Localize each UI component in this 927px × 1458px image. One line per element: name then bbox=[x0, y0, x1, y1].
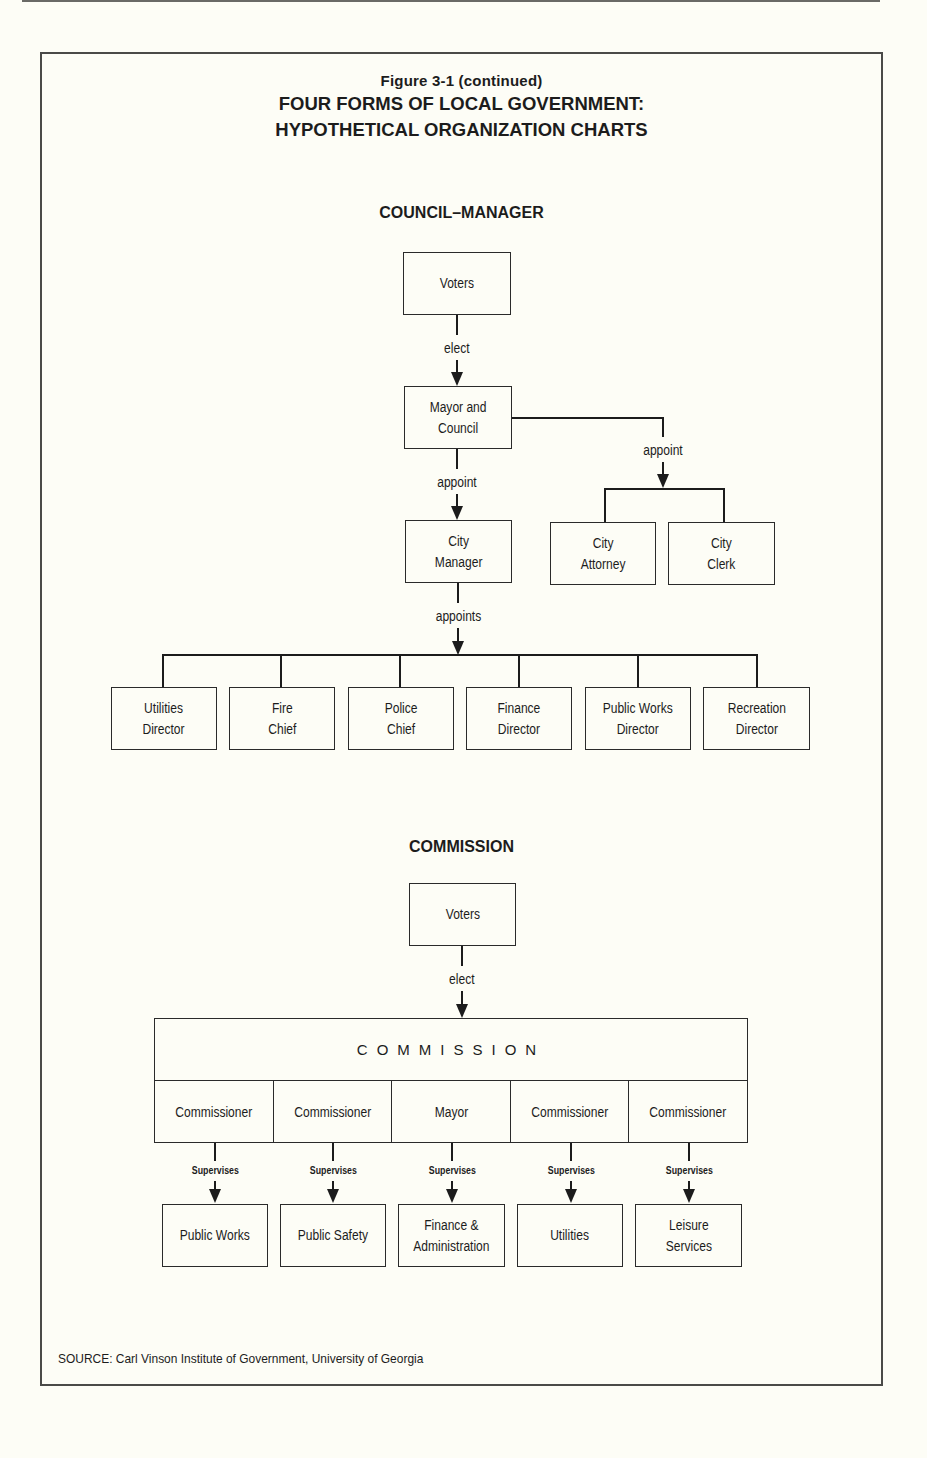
cm-city-clerk-box: City Clerk bbox=[668, 522, 775, 585]
cm-director-box-finance: Finance Director bbox=[466, 687, 572, 750]
cm-director-drop bbox=[518, 654, 520, 687]
cc-supervises-label: Supervises bbox=[165, 1164, 265, 1176]
cm-director-box-fire: Fire Chief bbox=[229, 687, 335, 750]
arrow-down-icon bbox=[446, 1189, 458, 1203]
cc-supervise-connector bbox=[451, 1143, 453, 1161]
cm-appoints-label: appoints bbox=[408, 608, 508, 624]
arrow-down-icon bbox=[657, 474, 669, 488]
figure-title-line2: HYPOTHETICAL ORGANIZATION CHARTS bbox=[40, 119, 883, 141]
cm-right-drop bbox=[662, 417, 664, 437]
commission-member-cell: Commissioner bbox=[511, 1081, 630, 1142]
commission-mayor-cell: Mayor bbox=[392, 1081, 511, 1142]
cc-dept-box-public-works: Public Works bbox=[162, 1204, 268, 1267]
cc-elect-label: elect bbox=[412, 971, 512, 987]
council-manager-title: COUNCIL–MANAGER bbox=[40, 204, 883, 222]
source-note: SOURCE: Carl Vinson Institute of Governm… bbox=[58, 1351, 455, 1366]
arrow-down-icon bbox=[456, 1004, 468, 1018]
cm-director-drop bbox=[162, 654, 164, 687]
arrow-down-icon bbox=[451, 372, 463, 386]
arrow-down-icon bbox=[327, 1189, 339, 1203]
figure-header: Figure 3-1 (continued) FOUR FORMS OF LOC… bbox=[40, 72, 883, 141]
commission-members-row: Commissioner Commissioner Mayor Commissi… bbox=[155, 1081, 747, 1142]
cm-voters-box: Voters bbox=[403, 252, 511, 315]
cm-director-drop bbox=[637, 654, 639, 687]
cc-supervises-label: Supervises bbox=[283, 1164, 383, 1176]
cm-elect-label: elect bbox=[407, 340, 507, 356]
cc-dept-box-utilities: Utilities bbox=[517, 1204, 623, 1267]
cm-staff-bracket bbox=[604, 488, 725, 490]
page-top-rule bbox=[22, 0, 880, 2]
cm-appoint-left-label: appoint bbox=[407, 474, 507, 490]
cc-dept-box-leisure-services: Leisure Services bbox=[635, 1204, 742, 1267]
cm-director-drop bbox=[756, 654, 758, 687]
commission-name: COMMISSION bbox=[155, 1019, 747, 1081]
cm-clerk-drop bbox=[723, 488, 725, 522]
cc-dept-box-finance-admin: Finance & Administration bbox=[398, 1204, 505, 1267]
cm-director-box-recreation: Recreation Director bbox=[703, 687, 810, 750]
cm-director-box-utilities: Utilities Director bbox=[111, 687, 217, 750]
cm-appoints-stem bbox=[457, 628, 459, 642]
cm-mayor-council-box: Mayor and Council bbox=[404, 386, 512, 449]
figure-title-line1: FOUR FORMS OF LOCAL GOVERNMENT: bbox=[40, 93, 883, 115]
cc-supervise-connector bbox=[214, 1143, 216, 1161]
cm-director-drop bbox=[280, 654, 282, 687]
cm-attorney-drop bbox=[604, 488, 606, 522]
cc-supervise-connector bbox=[332, 1143, 334, 1161]
cc-elect-stem bbox=[461, 991, 463, 1005]
commission-member-cell: Commissioner bbox=[155, 1081, 274, 1142]
cc-supervise-connector bbox=[570, 1143, 572, 1161]
cm-city-attorney-box: City Attorney bbox=[550, 522, 656, 585]
arrow-down-icon bbox=[683, 1189, 695, 1203]
commission-body: COMMISSION Commissioner Commissioner May… bbox=[154, 1018, 748, 1143]
arrow-down-icon bbox=[452, 641, 464, 655]
cc-voters-connector bbox=[461, 946, 463, 966]
cc-dept-box-public-safety: Public Safety bbox=[280, 1204, 386, 1267]
cc-voters-box: Voters bbox=[409, 883, 516, 946]
arrow-down-icon bbox=[565, 1189, 577, 1203]
figure-label: Figure 3-1 (continued) bbox=[40, 72, 883, 89]
cc-supervises-label: Supervises bbox=[639, 1164, 739, 1176]
commission-member-cell: Commissioner bbox=[274, 1081, 393, 1142]
cm-voters-connector bbox=[456, 315, 458, 335]
arrow-down-icon bbox=[209, 1189, 221, 1203]
cm-appoint-right-label: appoint bbox=[613, 442, 713, 458]
cm-council-right-connector bbox=[512, 417, 664, 419]
cm-director-drop bbox=[399, 654, 401, 687]
commission-member-cell: Commissioner bbox=[629, 1081, 747, 1142]
cm-director-box-public-works: Public Works Director bbox=[585, 687, 691, 750]
commission-title: COMMISSION bbox=[40, 838, 883, 856]
cm-city-manager-box: City Manager bbox=[405, 520, 512, 583]
cc-supervise-connector bbox=[688, 1143, 690, 1161]
cm-council-down-connector bbox=[456, 449, 458, 469]
arrow-down-icon bbox=[451, 506, 463, 520]
cm-director-box-police: Police Chief bbox=[348, 687, 454, 750]
cc-supervises-label: Supervises bbox=[402, 1164, 502, 1176]
cm-manager-connector bbox=[457, 583, 459, 603]
cc-supervises-label: Supervises bbox=[521, 1164, 621, 1176]
cm-directors-bracket bbox=[162, 654, 758, 656]
